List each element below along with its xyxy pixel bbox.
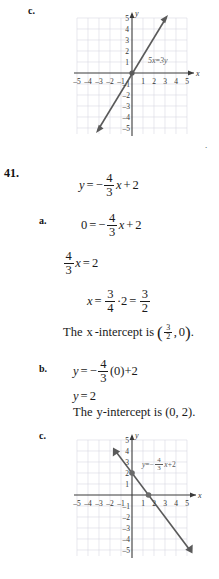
x-tick-labels: –5 –4 –3 –2 –1 1 2 3 4 5 [72, 77, 189, 86]
svg-text:3: 3 [163, 77, 167, 86]
part-label-c-top: c. [28, 5, 35, 16]
y-axis-arrow [130, 12, 135, 18]
graph2-svg: –5 –4 –3 –2 –1 1 2 3 4 5 5 4 3 2 1 –1 –2… [72, 424, 207, 574]
graph-5x-equals-3y: –5 –4 –3 –2 –1 1 2 3 4 5 5 4 3 2 1 –1 –2… [72, 6, 202, 146]
svg-text:–1: –1 [122, 80, 131, 89]
svg-text:–4: –4 [122, 113, 131, 122]
yint-post: -intercept is (0, 2). [103, 406, 196, 419]
x-axis-arrow [188, 71, 194, 76]
a2-fraction: 4 3 [64, 250, 74, 276]
a3-fraction-2: 3 2 [140, 288, 150, 314]
b2-rhs: 2 [90, 390, 96, 403]
main-eq-fraction: 4 3 [104, 172, 114, 198]
a3-equals-1: = [95, 295, 102, 308]
main-eq-constant: 2 [133, 179, 139, 192]
b1-plus: + [125, 365, 132, 378]
y-axis-name: y [134, 9, 139, 18]
svg-text:–5: –5 [122, 546, 131, 555]
y-intercept-conclusion: The y -intercept is (0, 2). [73, 406, 195, 419]
svg-text:2: 2 [125, 469, 129, 478]
main-eq-equals: = [87, 179, 94, 192]
a2-rhs: 2 [92, 257, 98, 270]
xint-pre: The [63, 326, 82, 339]
part-label-a: a. [39, 215, 47, 226]
graph1-eq-lhs: 5x [148, 57, 156, 65]
svg-text:–2: –2 [122, 91, 131, 100]
svg-text:–5: –5 [72, 77, 81, 86]
svg-text:4: 4 [174, 499, 178, 508]
a2-frac-num: 4 [64, 250, 74, 263]
main-equation: y = − 4 3 x + 2 [79, 172, 139, 198]
x-axis-arrow-2 [190, 493, 196, 498]
yint-pre: The [73, 406, 92, 419]
graph2-eq-frac-num: 4 [155, 457, 163, 464]
graph-y-equals-neg-4-3-x-plus-2: –5 –4 –3 –2 –1 1 2 3 4 5 5 4 3 2 1 –1 –2… [72, 424, 207, 574]
xint-var: x [86, 326, 92, 339]
svg-text:–5: –5 [72, 499, 81, 508]
a1-plus: + [126, 219, 133, 232]
svg-text:–5: –5 [122, 124, 131, 133]
a2-equals: = [83, 257, 90, 270]
svg-text:–2: –2 [105, 77, 114, 86]
part-a-line3: x = 3 4 · 2 = 3 2 [87, 288, 152, 314]
graph1-equation-label: 5x = 3y [148, 57, 168, 65]
a1-frac-num: 4 [107, 212, 117, 225]
part-label-c-bottom: c. [39, 430, 46, 441]
part-b-line2: y = 2 [73, 390, 96, 403]
a1-minus: − [98, 219, 105, 232]
svg-text:–3: –3 [94, 77, 103, 86]
a1-fraction: 4 3 [107, 212, 117, 238]
svg-text:–4: –4 [83, 499, 92, 508]
a3-f2-num: 3 [140, 288, 150, 301]
b2-equals: = [81, 390, 88, 403]
svg-text:–2: –2 [122, 513, 131, 522]
axes-2 [74, 436, 196, 558]
graph1-eq-rhs: 3y [160, 57, 168, 65]
main-eq-frac-num: 4 [104, 172, 114, 185]
svg-text:5: 5 [185, 499, 189, 508]
svg-text:5: 5 [125, 14, 129, 23]
svg-text:2: 2 [152, 499, 156, 508]
svg-text:3: 3 [125, 36, 129, 45]
b2-lhs: y [73, 390, 79, 403]
svg-text:–4: –4 [122, 535, 131, 544]
b1-minus: − [90, 365, 97, 378]
svg-text:1: 1 [125, 58, 129, 67]
b1-constant: 2 [132, 365, 138, 378]
xint-comma: , [174, 326, 177, 339]
svg-text:2: 2 [152, 77, 156, 86]
graph2-eq-fraction: 4 3 [155, 457, 163, 472]
a2-var: x [75, 257, 81, 270]
a3-fraction-1: 3 4 [105, 288, 115, 314]
a3-equals-2: = [129, 295, 136, 308]
a1-equals: = [89, 219, 96, 232]
svg-text:3: 3 [125, 458, 129, 467]
line-arrow-upper [161, 15, 169, 23]
main-eq-plus: + [124, 179, 131, 192]
svg-text:–3: –3 [94, 499, 103, 508]
a3-f1-num: 3 [105, 288, 115, 301]
a3-lhs: x [87, 295, 93, 308]
main-eq-var: x [116, 179, 122, 192]
svg-text:1: 1 [141, 499, 145, 508]
problem-number-41: 41. [4, 166, 19, 181]
a2-frac-den: 3 [64, 264, 74, 277]
b1-equals: = [81, 365, 88, 378]
y-axis-name-2: y [134, 431, 139, 440]
y-axis-arrow-2 [130, 434, 135, 440]
a1-frac-den: 3 [107, 226, 117, 239]
graph2-eq-constant: 2 [172, 461, 176, 469]
a1-constant: 2 [135, 219, 141, 232]
part-b-line1: y = − 4 3 (0) + 2 [73, 358, 138, 384]
y-intercept-point [129, 470, 135, 476]
origin-point [129, 70, 134, 75]
xint-frac-num: 3 [164, 324, 172, 332]
a3-mult: 2 [121, 295, 127, 308]
b1-paren-zero: (0) [110, 365, 125, 378]
svg-text:3: 3 [163, 499, 167, 508]
svg-text:4: 4 [125, 447, 129, 456]
main-eq-frac-den: 3 [104, 186, 114, 199]
xint-fraction: 3 2 [164, 324, 172, 341]
a3-f2-den: 2 [140, 302, 150, 315]
xint-open-paren: ( [157, 324, 163, 341]
